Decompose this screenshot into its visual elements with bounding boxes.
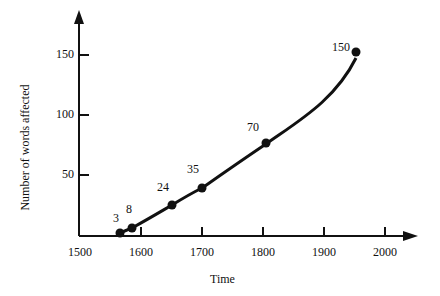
- point-label: 150: [332, 40, 350, 55]
- x-tick-1800: 1800: [243, 245, 283, 260]
- point-label: 8: [126, 202, 132, 217]
- x-tick-2000: 2000: [365, 245, 405, 260]
- x-tick-1600: 1600: [121, 245, 161, 260]
- y-axis-arrow-icon: [74, 10, 84, 24]
- y-tick-100: 100: [44, 107, 74, 122]
- x-tick-1700: 1700: [182, 245, 222, 260]
- y-tick-150: 150: [44, 47, 74, 62]
- x-axis-arrow-icon: [403, 231, 418, 241]
- point-label: 70: [247, 120, 259, 135]
- point-label: 35: [187, 162, 199, 177]
- y-tick-50: 50: [44, 167, 74, 182]
- x-tick-1900: 1900: [304, 245, 344, 260]
- point-label: 24: [157, 180, 169, 195]
- point-label: 3: [113, 211, 119, 226]
- y-axis-label: Number of words affected: [18, 78, 33, 218]
- x-tick-1500: 1500: [60, 245, 100, 260]
- x-axis-label: Time: [210, 272, 235, 287]
